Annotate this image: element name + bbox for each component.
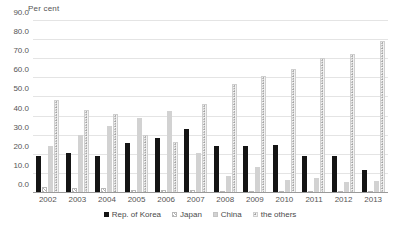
bar-others: [143, 135, 148, 193]
x-axis-tick-label: 2005: [122, 195, 152, 204]
legend-label: the others: [261, 210, 297, 219]
y-axis-tick-label: 30.0: [0, 122, 29, 131]
bar-others: [350, 54, 355, 193]
legend-label: Rep. of Korea: [112, 210, 161, 219]
y-axis-tick-label: 50.0: [0, 84, 29, 93]
bar-group: [358, 21, 388, 193]
bar-korea: [273, 145, 278, 193]
bar-others: [291, 69, 296, 193]
x-axis-labels: 2002200320042005200620072008200920102011…: [33, 195, 388, 204]
y-axis-tick-label: 0.0: [0, 180, 29, 189]
bar-korea: [302, 156, 307, 193]
legend-item-china[interactable]: China: [213, 210, 242, 219]
bar-group: [270, 21, 300, 193]
bar-korea: [36, 156, 41, 193]
legend-swatch-icon: [104, 212, 109, 217]
bar-china: [78, 135, 83, 193]
bar-group: [33, 21, 63, 193]
bar-china: [314, 178, 319, 193]
bar-others: [113, 114, 118, 193]
y-axis-title: Per cent: [28, 4, 59, 13]
bar-china: [167, 111, 172, 193]
bar-group: [181, 21, 211, 193]
x-axis-tick-label: 2013: [358, 195, 388, 204]
x-axis-tick-label: 2011: [299, 195, 329, 204]
x-axis-line: [33, 192, 388, 193]
legend-label: China: [221, 210, 242, 219]
bar-others: [320, 58, 325, 193]
bar-group: [122, 21, 152, 193]
bar-china: [255, 167, 260, 193]
bar-group: [92, 21, 122, 193]
legend-item-korea[interactable]: Rep. of Korea: [104, 210, 161, 219]
y-axis-tick-label: 90.0: [0, 8, 29, 17]
bar-others: [261, 76, 266, 193]
x-axis-tick-label: 2003: [63, 195, 93, 204]
bar-group: [329, 21, 359, 193]
bar-korea: [214, 146, 219, 193]
bar-group: [299, 21, 329, 193]
bar-korea: [243, 146, 248, 193]
chart-legend: Rep. of KoreaJapanChinathe others: [0, 210, 400, 219]
bar-group: [151, 21, 181, 193]
bar-china: [226, 176, 231, 193]
bar-korea: [184, 129, 189, 193]
x-axis-tick-label: 2009: [240, 195, 270, 204]
x-axis-tick-label: 2006: [151, 195, 181, 204]
legend-item-others[interactable]: the others: [253, 210, 297, 219]
bar-others: [202, 104, 207, 193]
y-axis-tick-label: 40.0: [0, 103, 29, 112]
bar-chart: Per cent 90.080.070.060.050.040.030.020.…: [0, 0, 400, 230]
plot-area: 90.080.070.060.050.040.030.020.010.00.0: [33, 21, 388, 193]
x-axis-tick-label: 2002: [33, 195, 63, 204]
y-axis-tick-label: 10.0: [0, 160, 29, 169]
legend-label: Japan: [180, 210, 202, 219]
bar-korea: [95, 156, 100, 193]
bar-group: [210, 21, 240, 193]
legend-swatch-icon: [213, 212, 218, 217]
bar-others: [380, 41, 385, 193]
bar-others: [54, 100, 59, 193]
y-axis-tick-label: 70.0: [0, 46, 29, 55]
y-axis-tick-label: 20.0: [0, 141, 29, 150]
y-axis-tick-label: 60.0: [0, 65, 29, 74]
x-axis-tick-label: 2004: [92, 195, 122, 204]
legend-item-japan[interactable]: Japan: [172, 210, 202, 219]
x-axis-tick-label: 2012: [329, 195, 359, 204]
x-axis-tick-label: 2008: [210, 195, 240, 204]
bar-china: [107, 126, 112, 193]
bar-china: [48, 146, 53, 193]
x-axis-tick-label: 2010: [270, 195, 300, 204]
bar-korea: [155, 138, 160, 193]
bar-others: [84, 110, 89, 193]
bar-china: [137, 118, 142, 193]
legend-swatch-icon: [172, 212, 177, 217]
bar-china: [196, 153, 201, 193]
y-axis-tick-label: 80.0: [0, 27, 29, 36]
bar-others: [173, 142, 178, 193]
legend-swatch-icon: [253, 212, 258, 217]
bar-korea: [332, 156, 337, 193]
bar-groups: [33, 21, 388, 193]
bar-group: [240, 21, 270, 193]
bar-group: [63, 21, 93, 193]
bar-korea: [66, 153, 71, 193]
bar-others: [232, 84, 237, 193]
x-axis-tick-label: 2007: [181, 195, 211, 204]
bar-korea: [362, 170, 367, 193]
bar-korea: [125, 143, 130, 193]
